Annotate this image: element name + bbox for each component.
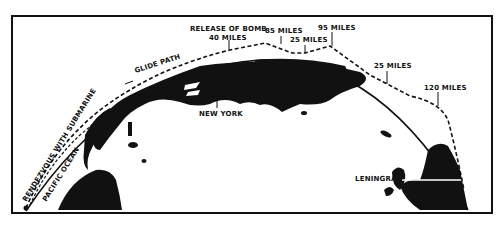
label-altitude-peak-1: 85 MILES xyxy=(265,28,303,35)
label-release-of-bomb: RELEASE OF BOMB xyxy=(190,26,267,33)
label-altitude-final: 120 MILES xyxy=(424,85,467,92)
glide-path-arrow-icon xyxy=(125,81,133,84)
label-altitude-peak-2: 95 MILES xyxy=(318,25,356,32)
rendezvous-point xyxy=(24,206,29,211)
label-altitude-dip-1: 25 MILES xyxy=(290,37,328,44)
label-new-york: NEW YORK xyxy=(199,111,243,118)
label-altitude-release: 40 MILES xyxy=(209,35,247,42)
landmass-north-america xyxy=(92,59,366,150)
label-altitude-dip-2: 25 MILES xyxy=(374,63,412,70)
label-leningrad: LENINGRAD xyxy=(355,176,403,183)
